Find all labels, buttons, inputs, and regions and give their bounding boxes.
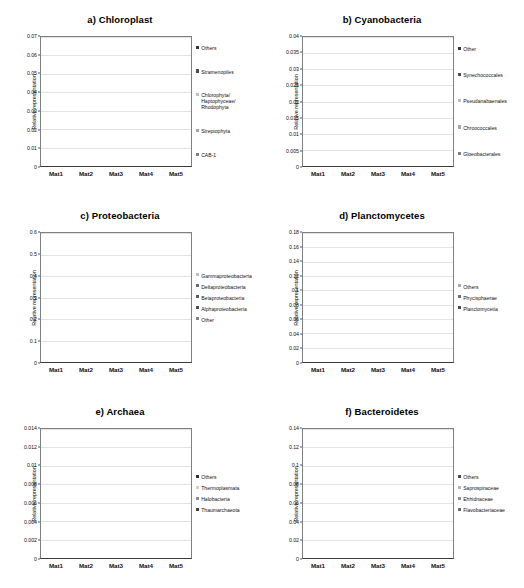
legend-item: Other [458,46,524,52]
y-tick-label: 0.04 [289,33,299,39]
legend-item: Chroococcales [458,125,524,131]
legend-swatch-icon [196,129,199,132]
y-tick-mark [38,502,40,503]
plot-area-b: Relative representation 00.0050.010.0150… [302,36,454,167]
y-tick-label: 0.025 [286,82,299,88]
y-tick-label: 0 [34,556,37,562]
y-tick-label: 0.1 [292,462,299,468]
y-tick-label: 0.06 [289,316,299,322]
y-tick-label: 0.01 [27,462,37,468]
y-tick-label: 0.04 [27,89,37,95]
y-tick-label: 0.035 [286,49,299,55]
legend-swatch-icon [458,47,461,50]
legend-label: Flavobacteriaceae [463,507,505,513]
legend-label: Alphaproteobacteria [201,306,247,312]
y-tick-mark [38,446,40,447]
legend-label: Other [463,46,476,52]
panel-c-proteobacteria: c) Proteobacteria Relative representatio… [0,196,262,392]
y-tick-label: 0.2 [30,316,37,322]
legend-item: Planctomycetia [458,306,524,312]
y-tick-mark [300,150,302,151]
y-tick-mark [300,465,302,466]
y-tick-label: 0.16 [289,244,299,250]
x-tick-label: Mat5 [168,366,185,373]
legend-d: OthersPhycisphaeraePlanctomycetia [458,232,524,363]
panel-a-chloroplast: a) Chloroplast Relative representation 0… [0,0,262,196]
y-tick-label: 0.02 [27,127,37,133]
y-tick-label: 0.6 [30,229,37,235]
y-axis-label: Relative representation [293,466,299,521]
y-tick-mark [300,333,302,334]
x-axis-ticks: Mat1Mat2Mat3Mat4Mat5 [303,366,453,373]
y-tick-label: 0 [296,556,299,562]
bar-group [303,37,453,166]
x-tick-label: Mat3 [370,366,387,373]
legend-item: Others [196,474,262,480]
y-tick-mark [38,110,40,111]
plot-area-e: Relative representation 00.0020.0040.006… [40,428,192,559]
y-tick-mark [300,502,302,503]
x-tick-label: Mat3 [108,562,125,569]
x-tick-label: Mat5 [430,366,447,373]
x-tick-label: Mat5 [430,562,447,569]
legend-item: Betaproteobacteria [196,295,262,301]
legend-label: Planctomycetia [463,306,498,312]
y-tick-mark [300,304,302,305]
legend-swatch-icon [196,295,199,298]
legend-item: Others [458,474,524,480]
legend-swatch-icon [196,69,199,72]
y-tick-label: 0.12 [289,444,299,450]
y-tick-mark [38,297,40,298]
y-tick-mark [38,92,40,93]
legend-label: Others [201,474,216,480]
y-tick-label: 0.08 [289,302,299,308]
plot-area-c: Relative representation 00.10.20.30.40.5… [40,232,192,363]
y-tick-mark [38,232,40,233]
panel-f-bacteroidetes: f) Bacteroidetes Relative representation… [262,392,524,588]
legend-item: Alphaproteobacteria [196,306,262,312]
y-tick-mark [300,559,302,560]
legend-item: Ehhidnaceae [458,496,524,502]
x-tick-label: Mat1 [48,366,65,373]
y-tick-mark [38,319,40,320]
legend-item: Thaumarchaeota [196,507,262,513]
y-tick-label: 0.1 [292,287,299,293]
legend-swatch-icon [196,486,199,489]
x-tick-label: Mat3 [108,366,125,373]
y-tick-label: 0.04 [289,519,299,525]
x-tick-label: Mat4 [138,366,155,373]
y-tick-label: 0.02 [289,345,299,351]
legend-label: Thermoplasmata [201,485,239,491]
y-tick-label: 0.12 [289,273,299,279]
legend-label: Streptophyta [201,128,230,134]
y-tick-mark [300,319,302,320]
y-tick-mark [300,68,302,69]
legend-swatch-icon [196,497,199,500]
y-tick-mark [300,85,302,86]
panel-title: f) Bacteroidetes [262,406,502,417]
bar-group [303,233,453,362]
x-tick-label: Mat5 [168,170,185,177]
legend-swatch-icon [458,125,461,128]
legend-item: Gammaproteobacteria [196,273,262,279]
y-tick-mark [38,54,40,55]
y-tick-mark [38,363,40,364]
x-tick-label: Mat2 [78,366,95,373]
y-tick-label: 0.05 [27,70,37,76]
legend-swatch-icon [196,508,199,511]
y-tick-mark [38,275,40,276]
legend-item: Gloeobacterales [458,151,524,157]
legend-swatch-icon [196,93,199,96]
legend-swatch-icon [458,497,461,500]
x-axis-ticks: Mat1Mat2Mat3Mat4Mat5 [41,366,191,373]
legend-item: Flavobacteriaceae [458,507,524,513]
y-tick-mark [300,167,302,168]
y-tick-mark [300,540,302,541]
legend-e: OthersThermoplasmataHalobacteriaThaumarc… [196,428,262,559]
legend-swatch-icon [458,486,461,489]
legend-c: GammaproteobacteriaDeltaproteobacteriaBe… [196,232,262,363]
y-tick-mark [38,148,40,149]
legend-item: Streptophyta [196,128,262,134]
legend-swatch-icon [458,306,461,309]
x-tick-label: Mat5 [168,562,185,569]
